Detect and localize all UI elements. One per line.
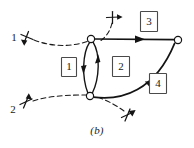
region-label-1: 1 [62, 58, 77, 77]
region-label-2: 2 [113, 57, 130, 77]
branch-marker-2-text: 2 [10, 103, 16, 115]
cross-marker-left-1 [21, 32, 33, 46]
cross-marker-left-2 [20, 93, 32, 108]
arrowhead-segment-3 [135, 36, 145, 43]
leader-line-cross-bottom [100, 98, 124, 111]
node-top [87, 35, 94, 42]
leader-line-cross-top [101, 23, 112, 41]
branch-marker-1-text: 1 [11, 31, 17, 43]
contour-nodes [86, 35, 181, 99]
cross-marker-top [107, 12, 123, 24]
arrowhead-segment-1 [81, 65, 87, 74]
node-right [174, 36, 181, 43]
region-label-1-text: 1 [66, 60, 72, 72]
figure-container: 1 2 3 4 1 2 (b) [0, 0, 194, 148]
cross-marker-left-1-arrowhead [21, 40, 27, 46]
leader-line-branch-1 [34, 40, 88, 45]
cross-marker-left-2-arrowhead [26, 93, 32, 99]
region-label-3: 3 [141, 12, 158, 32]
region-label-2-text: 2 [118, 60, 124, 72]
region-label-4: 4 [150, 74, 167, 94]
contour-segment-2-right-arc [92, 42, 98, 93]
figure-caption: (b) [0, 124, 194, 136]
node-bottom [86, 92, 93, 99]
cross-marker-top-arrowhead [117, 14, 123, 20]
region-label-3-text: 3 [146, 15, 152, 27]
contour-segment-3-top-line [95, 39, 175, 40]
leader-line-branch-2 [33, 95, 87, 101]
region-label-4-text: 4 [155, 77, 161, 89]
